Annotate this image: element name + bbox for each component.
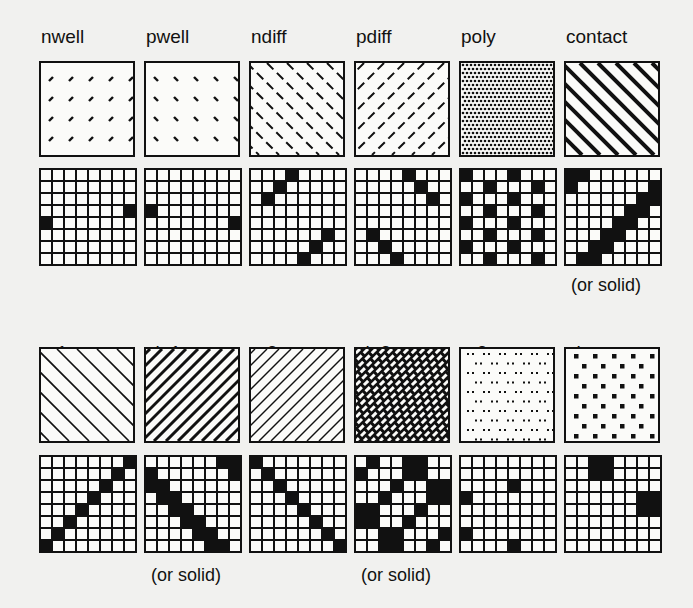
- grid-cell: [194, 242, 204, 252]
- grid-cell: [170, 182, 180, 192]
- stipple-pattern-ndiff: [249, 61, 345, 157]
- grid-cell: [335, 194, 345, 204]
- grid-cell: [428, 170, 438, 180]
- grid-cell: [101, 242, 111, 252]
- grid-cell: [638, 517, 648, 527]
- grid-cell: [440, 218, 450, 228]
- grid-cell: [218, 469, 228, 479]
- grid-cell: [230, 541, 240, 551]
- grid-cell: [404, 457, 414, 467]
- grid-cell: [509, 218, 519, 228]
- grid-cell: [566, 206, 576, 216]
- grid-cell: [497, 469, 507, 479]
- grid-cell: [485, 541, 495, 551]
- grid-cell: [392, 194, 402, 204]
- grid-cell: [590, 254, 600, 264]
- grid-cell: [113, 182, 123, 192]
- grid-cell: [311, 218, 321, 228]
- grid-cell: [146, 505, 156, 515]
- grid-cell: [602, 517, 612, 527]
- grid-cell: [53, 182, 63, 192]
- grid-cell: [170, 194, 180, 204]
- grid-cell: [170, 469, 180, 479]
- grid-cell: [638, 218, 648, 228]
- grid-cell: [335, 481, 345, 491]
- grid-cell: [497, 254, 507, 264]
- grid-cell: [194, 170, 204, 180]
- grid-cell: [638, 469, 648, 479]
- grid-cell: [230, 182, 240, 192]
- grid-cell: [497, 242, 507, 252]
- grid-cell: [206, 206, 216, 216]
- grid-cell: [335, 505, 345, 515]
- grid-cell: [230, 493, 240, 503]
- grid-cell: [368, 254, 378, 264]
- grid-cell: [590, 481, 600, 491]
- grid-cell: [146, 242, 156, 252]
- grid-cell: [461, 254, 471, 264]
- grid-cell: [311, 242, 321, 252]
- grid-cell: [125, 493, 135, 503]
- grid-cell: [218, 517, 228, 527]
- grid-cell: [194, 206, 204, 216]
- grid-cell: [323, 517, 333, 527]
- grid-cell: [101, 493, 111, 503]
- grid-cell: [545, 517, 555, 527]
- grid-cell: [602, 182, 612, 192]
- grid-cell: [578, 194, 588, 204]
- grid-cell: [404, 218, 414, 228]
- grid-cell: [251, 170, 261, 180]
- grid-cell: [218, 242, 228, 252]
- grid-cell: [287, 170, 297, 180]
- grid-cell: [101, 505, 111, 515]
- grid-cell: [335, 493, 345, 503]
- grid-cell: [101, 218, 111, 228]
- grid-cell: [380, 206, 390, 216]
- grid-cell: [53, 194, 63, 204]
- grid-cell: [101, 254, 111, 264]
- grid-cell: [416, 505, 426, 515]
- grid-cell: [590, 493, 600, 503]
- grid-cell: [206, 254, 216, 264]
- grid-cell: [461, 469, 471, 479]
- grid-cell: [392, 170, 402, 180]
- grid-cell: [53, 493, 63, 503]
- grid-cell: [53, 254, 63, 264]
- grid-cell: [509, 493, 519, 503]
- grid-cell: [170, 170, 180, 180]
- grid-cell: [392, 254, 402, 264]
- bitmap-grid-m1: [39, 455, 137, 553]
- grid-cell: [602, 469, 612, 479]
- grid-cell: [626, 218, 636, 228]
- grid-cell: [485, 469, 495, 479]
- grid-cell: [638, 481, 648, 491]
- grid-cell: [65, 170, 75, 180]
- grid-cell: [206, 541, 216, 551]
- grid-cell: [578, 529, 588, 539]
- grid-cell: [404, 254, 414, 264]
- grid-cell: [182, 230, 192, 240]
- grid-cell: [65, 242, 75, 252]
- grid-cell: [41, 194, 51, 204]
- grid-cell: [218, 206, 228, 216]
- grid-cell: [170, 230, 180, 240]
- grid-cell: [113, 170, 123, 180]
- grid-cell: [392, 218, 402, 228]
- grid-cell: [287, 505, 297, 515]
- grid-cell: [533, 541, 543, 551]
- grid-cell: [194, 529, 204, 539]
- grid-cell: [113, 206, 123, 216]
- grid-cell: [521, 469, 531, 479]
- grid-cell: [101, 469, 111, 479]
- grid-cell: [158, 517, 168, 527]
- grid-cell: [89, 206, 99, 216]
- grid-cell: [602, 218, 612, 228]
- grid-cell: [404, 541, 414, 551]
- grid-cell: [578, 493, 588, 503]
- grid-cell: [263, 469, 273, 479]
- grid-cell: [650, 254, 660, 264]
- stipple-pattern-m2: [249, 347, 345, 443]
- grid-cell: [521, 218, 531, 228]
- grid-cell: [182, 170, 192, 180]
- grid-cell: [89, 242, 99, 252]
